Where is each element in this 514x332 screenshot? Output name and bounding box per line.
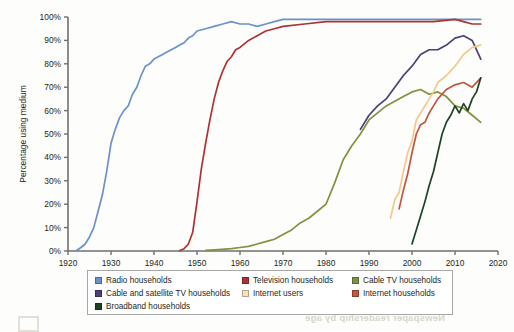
- legend-label: Internet users: [253, 289, 303, 298]
- series-line-broadband-households: [412, 78, 481, 244]
- x-tick-label: 1960: [231, 258, 250, 268]
- chart-legend: Radio households Television households C…: [87, 270, 453, 315]
- series-layer: [77, 19, 481, 250]
- y-tick-label: 70%: [44, 82, 61, 92]
- legend-item-cable-tv-households[interactable]: Cable TV households: [352, 274, 452, 287]
- y-tick-label: 10%: [44, 223, 61, 233]
- x-tick-label: 2010: [446, 258, 465, 268]
- legend-label: Broadband households: [106, 302, 190, 311]
- legend-row: Cable and satellite TV households Intern…: [88, 287, 452, 300]
- legend-swatch-icon: [95, 277, 102, 284]
- legend-label: Radio households: [106, 276, 172, 285]
- x-tick-label: 1940: [145, 258, 164, 268]
- x-tick-label: 1980: [317, 258, 336, 268]
- legend-label: Cable and satellite TV households: [106, 289, 230, 298]
- y-tick-label: 20%: [44, 199, 61, 209]
- legend-label: Cable TV households: [363, 276, 441, 285]
- legend-swatch-icon: [242, 277, 249, 284]
- legend-row: Broadband households: [88, 300, 452, 313]
- x-tick-label: 1970: [274, 258, 293, 268]
- y-tick-label: 40%: [44, 152, 61, 162]
- y-tick-label: 30%: [44, 176, 61, 186]
- y-tick-label: 0%: [49, 246, 62, 256]
- x-tick-label: 1950: [188, 258, 207, 268]
- series-line-internet-users: [391, 45, 481, 218]
- legend-item-radio-households[interactable]: Radio households: [88, 274, 242, 287]
- legend-item-cable-and-satellite-tv-households[interactable]: Cable and satellite TV households: [88, 287, 242, 300]
- series-line-cable-tv-households: [206, 90, 481, 251]
- legend-item-broadband-households[interactable]: Broadband households: [88, 300, 242, 313]
- y-tick-label: 50%: [44, 129, 61, 139]
- legend-swatch-icon: [95, 290, 102, 297]
- legend-label: Television households: [253, 276, 333, 285]
- x-tick-label: 1930: [102, 258, 121, 268]
- x-tick-label: 2000: [403, 258, 422, 268]
- series-line-television-households: [180, 19, 481, 250]
- y-tick-label: 100%: [40, 12, 62, 22]
- legend-swatch-icon: [352, 290, 359, 297]
- legend-row: Radio households Television households C…: [88, 274, 452, 287]
- legend-item-internet-users[interactable]: Internet users: [242, 287, 352, 300]
- x-tick-label: 1920: [59, 258, 78, 268]
- legend-swatch-icon: [95, 303, 102, 310]
- legend-label: Internet households: [363, 289, 435, 298]
- axis-layer: [64, 17, 498, 255]
- x-tick-label: 1990: [360, 258, 379, 268]
- y-tick-label: 90%: [44, 35, 61, 45]
- legend-item-internet-households[interactable]: Internet households: [352, 287, 452, 300]
- y-tick-label: 80%: [44, 59, 61, 69]
- x-tick-label: 2020: [489, 258, 508, 268]
- legend-item-television-households[interactable]: Television households: [242, 274, 352, 287]
- y-tick-label: 60%: [44, 106, 61, 116]
- legend-swatch-icon: [352, 277, 359, 284]
- legend-swatch-icon: [242, 290, 249, 297]
- y-axis-title: Percentage using medium: [18, 85, 28, 182]
